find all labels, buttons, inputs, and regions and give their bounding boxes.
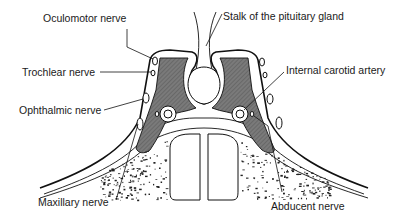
bone-speckle xyxy=(303,185,304,187)
bone-speckle xyxy=(101,182,103,183)
bone-speckle xyxy=(248,189,250,190)
bone-speckle xyxy=(256,156,258,157)
left-ophthalmic-oval xyxy=(143,93,149,103)
bone-speckle xyxy=(246,146,248,147)
bone-speckle xyxy=(131,194,133,195)
cavernous-sinus-diagram: Oculomotor nerve Trochlear nerve Ophthal… xyxy=(0,0,408,221)
abducent-nerve-label: Abducent nerve xyxy=(271,200,345,212)
bone-speckle xyxy=(145,155,147,156)
bone-speckle xyxy=(323,187,325,188)
bone-speckle xyxy=(327,183,329,184)
bone-speckle xyxy=(124,186,125,187)
bone-speckle xyxy=(157,155,159,156)
bone-speckle xyxy=(306,185,309,187)
bone-speckle xyxy=(257,162,260,164)
right-carotid-inner xyxy=(236,110,244,118)
right-trochlear-oval xyxy=(263,72,267,78)
bone-speckle xyxy=(137,170,138,172)
bone-speckle xyxy=(124,189,126,191)
bone-speckle xyxy=(107,177,109,178)
bone-speckle xyxy=(262,188,263,189)
bone-speckle xyxy=(264,164,265,166)
bone-speckle xyxy=(306,179,308,180)
bone-speckle xyxy=(160,163,161,164)
bone-speckle xyxy=(122,182,123,183)
bone-speckle xyxy=(156,199,158,200)
bone-speckle xyxy=(322,194,323,195)
left-bone-speckle xyxy=(100,141,169,201)
bone-speckle xyxy=(283,189,284,191)
bone-speckle xyxy=(109,170,111,172)
bone-speckle xyxy=(288,194,289,195)
bone-speckle xyxy=(266,182,268,183)
bone-speckle xyxy=(136,198,137,199)
bone-speckle xyxy=(134,159,135,160)
bone-speckle xyxy=(166,146,169,147)
bone-speckle xyxy=(317,175,318,177)
bone-speckle xyxy=(328,190,330,191)
bone-speckle xyxy=(283,193,285,195)
right-maxillary-oval xyxy=(276,117,282,129)
bone-speckle xyxy=(329,187,332,188)
bone-speckle xyxy=(246,178,249,179)
sphenoid-right xyxy=(208,134,238,200)
bone-speckle xyxy=(111,168,114,170)
bone-speckle xyxy=(128,169,130,170)
bone-speckle xyxy=(243,154,246,155)
bone-speckle xyxy=(301,198,302,200)
bone-speckle xyxy=(328,185,329,186)
bone-speckle xyxy=(254,178,255,179)
bone-speckle xyxy=(125,171,126,172)
bone-speckle xyxy=(161,182,163,184)
bone-speckle xyxy=(127,171,129,172)
bone-speckle xyxy=(284,172,285,173)
bone-speckle xyxy=(262,177,264,178)
bone-speckle xyxy=(272,178,274,180)
bone-speckle xyxy=(251,155,252,156)
bone-speckle xyxy=(118,199,119,200)
bone-speckle xyxy=(143,184,144,186)
bone-speckle xyxy=(265,191,267,192)
bone-speckle xyxy=(109,194,112,195)
bone-speckle xyxy=(247,187,249,188)
bone-speckle xyxy=(272,195,274,196)
bone-speckle xyxy=(304,195,307,196)
pituitary-gland xyxy=(188,67,220,104)
bone-speckle xyxy=(301,191,304,192)
bone-speckle xyxy=(134,190,136,192)
bone-speckle xyxy=(104,179,106,180)
bone-speckle xyxy=(261,162,263,163)
bone-speckle xyxy=(165,172,166,173)
bone-speckle xyxy=(138,156,139,157)
bone-speckle xyxy=(129,188,131,189)
bone-speckle xyxy=(109,192,111,194)
oculomotor-leader xyxy=(127,29,153,59)
bone-speckle xyxy=(241,152,242,153)
pituitary-stalk-label: Stalk of the pituitary gland xyxy=(223,10,344,22)
bone-speckle xyxy=(278,157,280,159)
bone-speckle xyxy=(117,182,118,183)
bone-speckle xyxy=(104,182,106,184)
bone-speckle xyxy=(319,196,321,198)
bone-speckle xyxy=(131,189,133,191)
bone-speckle xyxy=(313,176,315,177)
bone-speckle xyxy=(132,169,134,170)
bone-speckle xyxy=(137,200,139,202)
bone-speckle xyxy=(286,171,289,173)
bone-speckle xyxy=(114,185,115,186)
left-trochlear-oval xyxy=(151,70,155,76)
bone-speckle xyxy=(310,192,312,193)
bone-speckle xyxy=(299,186,302,187)
bone-speckle xyxy=(270,162,271,163)
bone-speckle xyxy=(153,162,155,164)
bone-speckle xyxy=(306,173,308,175)
bone-speckle xyxy=(257,192,259,193)
bone-speckle xyxy=(320,187,322,188)
bone-speckle xyxy=(299,174,302,175)
bone-speckle xyxy=(163,178,165,179)
bone-speckle xyxy=(121,193,123,194)
bone-speckle xyxy=(145,194,146,195)
bone-speckle xyxy=(248,163,249,164)
bone-speckle xyxy=(155,169,156,170)
bone-speckle xyxy=(260,167,261,168)
